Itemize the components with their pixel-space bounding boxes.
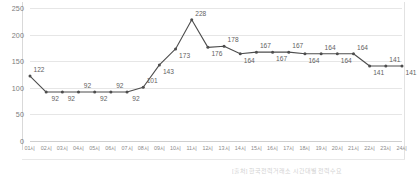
- x-axis-tick-label: 19시: [316, 144, 327, 152]
- data-point-marker: [93, 91, 96, 94]
- x-axis-tick-label: 22시: [364, 144, 375, 152]
- y-axis-tick-label: 200: [0, 31, 24, 40]
- x-axis-tick-label: 24시: [397, 144, 408, 152]
- data-point-label: 173: [179, 52, 190, 59]
- data-point-label: 143: [163, 68, 174, 75]
- data-point-label: 176: [211, 50, 222, 57]
- data-point-marker: [126, 91, 129, 94]
- data-point-label: 101: [147, 77, 158, 84]
- data-point-marker: [320, 52, 323, 55]
- x-axis-tick-labels: 01시02시03시04시05시06시07시08시09시10시11시12시13시1…: [30, 144, 402, 156]
- x-axis-tick-label: 02시: [41, 144, 52, 152]
- data-point-marker: [174, 47, 177, 50]
- data-point-marker: [368, 64, 371, 67]
- y-axis-tick-label: 250: [0, 4, 24, 13]
- data-point-marker: [190, 18, 193, 21]
- x-axis-tick-label: 01시: [25, 144, 36, 152]
- data-point-marker: [45, 91, 48, 94]
- data-point-label: 92: [52, 95, 59, 102]
- plot-area: 1229292929292921011431732281761781641671…: [30, 8, 402, 141]
- data-point-label: 164: [341, 57, 352, 64]
- data-point-marker: [352, 52, 355, 55]
- x-axis-tick-label: 06시: [105, 144, 116, 152]
- data-point-marker: [287, 51, 290, 54]
- data-point-label: 164: [357, 44, 368, 51]
- x-axis-tick-label: 05시: [89, 144, 100, 152]
- data-point-label: 92: [100, 95, 107, 102]
- data-point-label: 141: [389, 56, 400, 63]
- data-point-label: 141: [405, 69, 416, 76]
- x-axis-tick-label: 21시: [348, 144, 359, 152]
- y-axis-tick-label: 0: [0, 137, 24, 146]
- data-point-label: 178: [228, 36, 239, 43]
- x-axis-line: [30, 141, 402, 142]
- data-point-marker: [336, 52, 339, 55]
- x-axis-tick-label: 10시: [170, 144, 181, 152]
- data-point-label: 167: [276, 55, 287, 62]
- data-point-label: 167: [292, 42, 303, 49]
- y-axis-tick-label: 100: [0, 84, 24, 93]
- data-point-marker: [109, 91, 112, 94]
- data-point-marker: [384, 64, 387, 67]
- y-axis-tick-label: 50: [0, 110, 24, 119]
- x-axis-tick-label: 04시: [73, 144, 84, 152]
- data-point-marker: [206, 46, 209, 49]
- data-point-marker: [158, 63, 161, 66]
- data-point-marker: [271, 51, 274, 54]
- data-point-marker: [255, 51, 258, 54]
- data-series-line: [30, 8, 402, 141]
- data-point-marker: [223, 45, 226, 48]
- data-point-marker: [77, 91, 80, 94]
- data-point-label: 92: [116, 82, 123, 89]
- data-point-label: 167: [260, 42, 271, 49]
- data-point-marker: [239, 52, 242, 55]
- x-axis-tick-label: 12시: [202, 144, 213, 152]
- data-point-marker: [401, 64, 404, 67]
- y-axis-tick-labels: 050100150200250: [0, 8, 26, 141]
- x-axis-tick-label: 15시: [251, 144, 262, 152]
- data-point-label: 228: [195, 10, 206, 17]
- x-axis-tick-label: 14시: [235, 144, 246, 152]
- data-point-label: 164: [308, 57, 319, 64]
- data-point-label: 92: [132, 95, 139, 102]
- data-point-marker: [61, 91, 64, 94]
- x-axis-tick-label: 08시: [138, 144, 149, 152]
- chart-frame-right-border: [404, 2, 405, 160]
- y-axis-tick-label: 150: [0, 57, 24, 66]
- data-point-marker: [303, 52, 306, 55]
- x-axis-tick-label: 11시: [186, 144, 197, 152]
- x-axis-tick-label: 16시: [267, 144, 278, 152]
- chart-caption: [출처] 한국전력거래소 시간대별 전력수요: [232, 166, 410, 176]
- chart-frame-bottom-border: [22, 159, 405, 160]
- data-point-label: 164: [244, 57, 255, 64]
- x-axis-tick-label: 03시: [57, 144, 68, 152]
- x-axis-tick-label: 18시: [299, 144, 310, 152]
- x-axis-tick-label: 23시: [380, 144, 391, 152]
- data-point-label: 164: [325, 44, 336, 51]
- data-point-marker: [142, 86, 145, 89]
- x-axis-tick-label: 09시: [154, 144, 165, 152]
- x-axis-tick-label: 13시: [219, 144, 230, 152]
- data-point-label: 92: [84, 82, 91, 89]
- x-axis-tick-label: 07시: [122, 144, 133, 152]
- x-axis-tick-label: 20시: [332, 144, 343, 152]
- x-axis-tick-label: 17시: [283, 144, 294, 152]
- data-point-label: 92: [68, 95, 75, 102]
- data-point-marker: [29, 75, 32, 78]
- data-point-label: 141: [373, 69, 384, 76]
- data-point-label: 122: [33, 66, 44, 73]
